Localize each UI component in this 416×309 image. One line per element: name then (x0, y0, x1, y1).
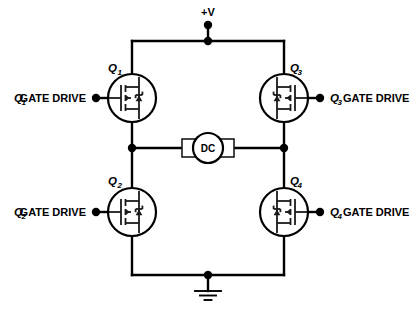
q1-ref-letter: Q (108, 62, 117, 74)
transistor-label-q4: Q 4 (290, 175, 303, 190)
q2-ref-number: 2 (117, 181, 123, 190)
gd2-text: GATE DRIVE (20, 206, 86, 218)
transistor-q4[interactable] (260, 188, 308, 236)
transistor-q2[interactable] (108, 188, 156, 236)
ground-junction-dot (204, 271, 212, 279)
gd4-ref-number: 4 (337, 212, 343, 221)
q2-ref-letter: Q (108, 175, 117, 187)
q1-ref-number: 1 (118, 68, 123, 77)
left-mid-node-dot (128, 144, 136, 152)
q4-ref-number: 4 (297, 181, 303, 190)
transistor-q1[interactable] (108, 74, 156, 122)
h-bridge-schematic: DC +V Q 1 Q 2 Q 3 Q 4 GATE DRIVE Q 1 GAT… (0, 0, 416, 309)
transistor-label-q1: Q 1 (108, 62, 122, 77)
top-rail-junction-dot (204, 37, 212, 45)
q3-gate-terminal-dot (316, 94, 324, 102)
gd4-text: GATE DRIVE (343, 206, 409, 218)
gd1-text: GATE DRIVE (20, 92, 86, 104)
motor-label: DC (201, 143, 215, 154)
q3-ref-number: 3 (298, 68, 303, 77)
q2-gate-terminal-dot (92, 208, 100, 216)
ground-symbol (195, 291, 221, 300)
supply-label: +V (201, 6, 215, 18)
gd3-ref-number: 3 (338, 98, 343, 107)
supply-terminal-dot (204, 21, 212, 29)
gate-drive-label-q3: Q 3 GATE DRIVE (330, 92, 409, 107)
gate-drive-label-q1: GATE DRIVE Q 1 (14, 92, 86, 107)
q4-gate-terminal-dot (316, 208, 324, 216)
gate-drive-label-q2: GATE DRIVE Q 2 (14, 206, 86, 221)
transistor-label-q2: Q 2 (108, 175, 122, 190)
gd2-ref-number: 2 (21, 212, 27, 221)
dc-motor-load[interactable]: DC (182, 133, 234, 163)
gd3-text: GATE DRIVE (343, 92, 409, 104)
right-mid-node-dot (280, 144, 288, 152)
gate-drive-label-q4: Q 4 GATE DRIVE (330, 206, 409, 221)
circuit-diagram: DC +V Q 1 Q 2 Q 3 Q 4 GATE DRIVE Q 1 GAT… (0, 0, 416, 309)
q1-gate-terminal-dot (92, 94, 100, 102)
transistor-q3[interactable] (260, 74, 308, 122)
gd1-ref-number: 1 (22, 98, 27, 107)
